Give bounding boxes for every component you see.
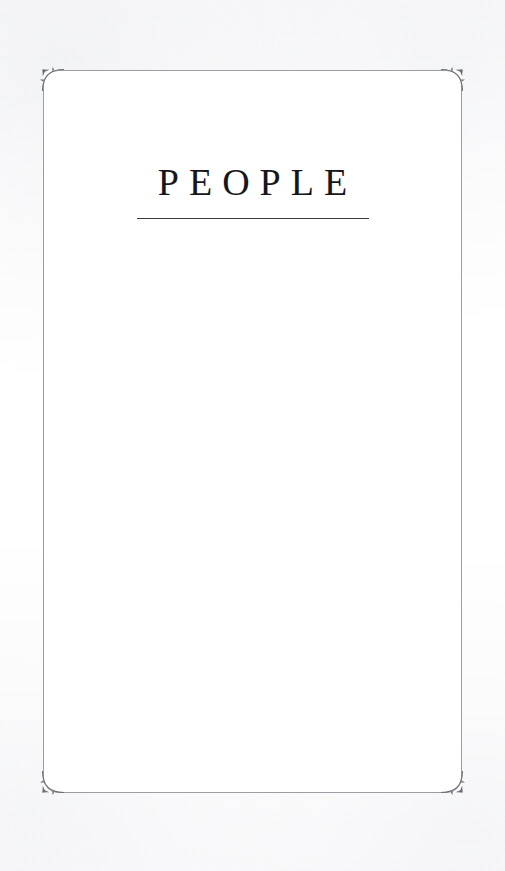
divider-page: PEOPLE xyxy=(0,0,505,871)
title-underline-rule xyxy=(137,218,369,219)
page-title: PEOPLE xyxy=(43,160,462,204)
title-block: PEOPLE xyxy=(43,160,462,219)
